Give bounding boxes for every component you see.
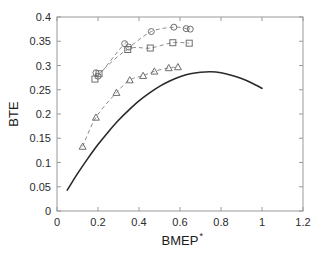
y-tick-label: 0 — [45, 205, 51, 217]
data-point-triangle-marker — [93, 114, 100, 120]
data-point-triangle-marker — [175, 64, 182, 70]
series-line-baseline-curve — [67, 72, 262, 190]
data-point-triangle-marker — [140, 72, 147, 78]
series-circle-series — [93, 24, 193, 79]
x-tick-label: 1 — [259, 216, 265, 228]
x-tick-label: 1.2 — [295, 216, 310, 228]
x-tick-label: 0.6 — [172, 216, 187, 228]
y-tick-label: 0.2 — [36, 108, 51, 120]
y-tick-label: 0.25 — [30, 84, 51, 96]
series-square-series — [92, 40, 192, 82]
y-tick-label: 0.4 — [36, 11, 51, 23]
y-axis-tick-labels: 00.050.10.150.20.250.30.350.4 — [30, 11, 51, 217]
plot-box — [57, 17, 303, 211]
y-axis-title: BTE — [6, 101, 21, 127]
series-baseline-curve — [67, 72, 262, 190]
x-axis-tick-labels: 00.20.40.60.811.2 — [54, 216, 311, 228]
y-axis-ticks — [57, 17, 303, 211]
data-point-triangle-marker — [165, 64, 172, 70]
plot-frame — [57, 17, 303, 211]
y-tick-label: 0.3 — [36, 60, 51, 72]
x-axis-title-superscript: * — [199, 231, 203, 241]
x-axis-title: BMEP — [162, 233, 199, 248]
chart-canvas: 00.20.40.60.811.2 00.050.10.150.20.250.3… — [0, 0, 321, 253]
y-tick-label: 0.15 — [30, 132, 51, 144]
data-point-triangle-marker — [126, 77, 133, 83]
y-tick-label: 0.35 — [30, 35, 51, 47]
x-tick-label: 0.4 — [131, 216, 146, 228]
x-tick-label: 0 — [54, 216, 60, 228]
x-tick-label: 0.8 — [213, 216, 228, 228]
y-tick-label: 0.05 — [30, 181, 51, 193]
data-series-layer — [67, 24, 262, 190]
chart-figure: 00.20.40.60.811.2 00.050.10.150.20.250.3… — [0, 0, 321, 253]
data-point-circle-marker — [187, 26, 193, 32]
x-axis-ticks — [57, 17, 303, 211]
y-tick-label: 0.1 — [36, 157, 51, 169]
x-tick-label: 0.2 — [90, 216, 105, 228]
